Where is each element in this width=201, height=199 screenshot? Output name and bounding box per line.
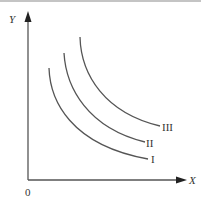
indifference-curve-iii — [80, 37, 160, 126]
origin-label: 0 — [25, 186, 31, 198]
curve-label-i: I — [151, 153, 155, 165]
indifference-curve-diagram: Y X 0 I II III — [0, 0, 201, 199]
y-axis-label: Y — [9, 13, 17, 25]
indifference-curve-ii — [64, 53, 145, 142]
x-axis-label: X — [188, 174, 197, 186]
x-axis-arrow-icon — [176, 177, 187, 184]
curve-label-iii: III — [162, 121, 173, 133]
curve-label-ii: II — [146, 137, 154, 149]
indifference-curve-i — [49, 68, 148, 159]
y-axis-arrow-icon — [25, 11, 32, 22]
